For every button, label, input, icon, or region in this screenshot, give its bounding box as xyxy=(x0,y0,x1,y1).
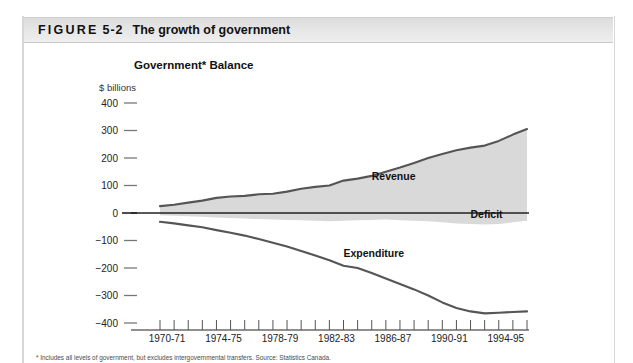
series-annotation-deficit: Deficit xyxy=(471,208,504,220)
x-axis-tick-label: 1986-87 xyxy=(375,333,412,344)
chart-plot-svg: 4003002001000−100−200−300−400 1970-71197… xyxy=(0,0,633,363)
y-axis-tick-label: 400 xyxy=(101,98,118,109)
y-axis-tick-label: 100 xyxy=(101,180,118,191)
x-axis-tick-label: 1994-95 xyxy=(487,333,524,344)
y-axis-tick-label: 200 xyxy=(101,153,118,164)
revenue-area xyxy=(160,129,527,213)
y-axis-tick-label: −100 xyxy=(95,235,118,246)
y-axis-tick-group: 4003002001000−100−200−300−400 xyxy=(95,98,137,329)
y-axis-tick-label: −400 xyxy=(95,318,118,329)
x-axis-tick-label: 1982-83 xyxy=(318,333,355,344)
y-axis-tick-label: −300 xyxy=(95,290,118,301)
x-axis-tick-label: 1970-71 xyxy=(149,333,186,344)
y-axis-tick-label: 0 xyxy=(112,208,118,219)
figure-card: FIGURE5-2The growth of government Govern… xyxy=(0,0,633,363)
y-axis-tick-label: 300 xyxy=(101,125,118,136)
chart-area: Government* Balance $ billions 400300200… xyxy=(0,0,633,363)
y-axis-tick-label: −200 xyxy=(95,263,118,274)
figure-footnote: * Includes all levels of government, but… xyxy=(36,354,608,362)
x-axis-tick-label: 1978-79 xyxy=(262,333,299,344)
series-annotation-revenue: Revenue xyxy=(372,170,416,182)
series-annotation-expenditure: Expenditure xyxy=(344,247,405,259)
expenditure-line xyxy=(160,222,527,314)
x-axis-tick-label: 1974-75 xyxy=(205,333,242,344)
x-axis-group: 1970-711974-751978-791982-831986-871990-… xyxy=(131,320,529,344)
x-axis-tick-label: 1990-91 xyxy=(431,333,468,344)
